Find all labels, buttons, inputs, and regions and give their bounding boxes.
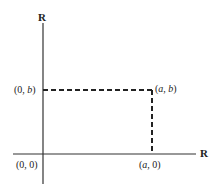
coordinate-diagram: R R (0, b) (a, b) (0, 0) (a, 0) (0, 0, 218, 192)
y-axis-label: R (38, 12, 46, 23)
point-label-origin: (0, 0) (16, 160, 38, 170)
label-part: (0, (14, 84, 27, 95)
point-label-a-0: (a, 0) (139, 160, 161, 170)
x-axis-label: R (200, 148, 208, 159)
label-part: ) (32, 84, 35, 95)
point-label-a-b: (a, b) (155, 84, 177, 94)
point-label-0-b: (0, b) (14, 85, 36, 95)
label-part: , 0) (147, 159, 160, 170)
label-part: ) (173, 83, 176, 94)
